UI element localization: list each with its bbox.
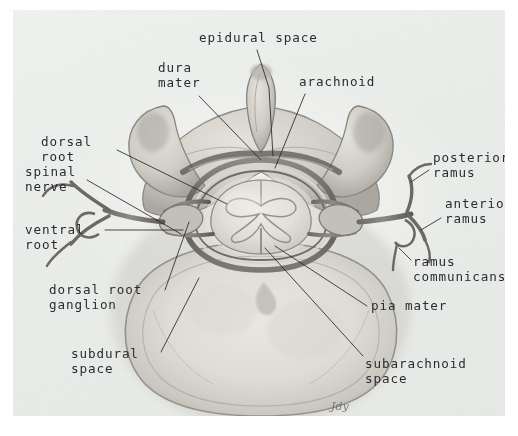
- label-line: dura: [158, 60, 192, 75]
- label-pia-mater: pia mater: [371, 298, 447, 313]
- leader-line-ramus-communicans: [399, 248, 411, 260]
- label-anterior-ramus: anteriorramus: [445, 196, 505, 226]
- label-line: ramus: [445, 211, 487, 226]
- label-line: root: [25, 237, 59, 252]
- label-line: epidural space: [199, 30, 318, 45]
- leader-line-subdural-space: [161, 278, 199, 352]
- label-arachnoid: arachnoid: [299, 74, 375, 89]
- label-line: space: [365, 371, 407, 386]
- anatomical-figure: Jdy epidural spaceduramaterarachnoiddors…: [0, 0, 518, 436]
- label-line: anterior: [445, 196, 505, 211]
- labels-group: epidural spaceduramaterarachnoiddorsalro…: [25, 30, 505, 386]
- label-line: dorsal root: [49, 282, 142, 297]
- leader-line-pia-mater: [275, 246, 367, 306]
- leader-line-subarachnoid-space: [265, 248, 363, 356]
- label-dorsal-root: dorsalroot: [41, 134, 92, 164]
- illustration-plate: Jdy epidural spaceduramaterarachnoiddors…: [13, 10, 505, 416]
- label-spinal-nerve: spinalnerve: [25, 164, 76, 194]
- label-line: dorsal: [41, 134, 92, 149]
- label-line: ramus: [413, 254, 455, 269]
- label-line: ventral: [25, 222, 84, 237]
- leader-line-arachnoid: [275, 94, 305, 168]
- label-ventral-root: ventralroot: [25, 222, 84, 252]
- label-line: root: [41, 149, 75, 164]
- label-line: space: [71, 361, 113, 376]
- label-line: subarachnoid: [365, 356, 467, 371]
- label-epidural-space: epidural space: [199, 30, 318, 45]
- label-dura-mater: duramater: [158, 60, 200, 90]
- label-subarachnoid-space: subarachnoidspace: [365, 356, 467, 386]
- label-subdural-space: subduralspace: [71, 346, 139, 376]
- label-posterior-ramus: posteriorramus: [433, 150, 505, 180]
- leader-line-epidural-space: [257, 50, 273, 156]
- label-line: arachnoid: [299, 74, 375, 89]
- leader-line-dorsal-root: [117, 150, 227, 204]
- label-line: subdural: [71, 346, 139, 361]
- leader-line-dorsal-root-ganglion: [165, 222, 189, 290]
- leader-line-posterior-ramus: [411, 170, 429, 182]
- label-line: nerve: [25, 179, 67, 194]
- label-line: ramus: [433, 165, 475, 180]
- label-line: communicans: [413, 269, 505, 284]
- label-ramus-communicans: ramuscommunicans: [413, 254, 505, 284]
- leader-line-dura-mater: [199, 96, 261, 160]
- label-line: ganglion: [49, 297, 117, 312]
- label-layer: epidural spaceduramaterarachnoiddorsalro…: [13, 10, 505, 416]
- leader-line-anterior-ramus: [421, 218, 441, 230]
- label-line: spinal: [25, 164, 76, 179]
- label-line: mater: [158, 75, 200, 90]
- label-dorsal-root-ganglion: dorsal rootganglion: [49, 282, 142, 312]
- label-line: posterior: [433, 150, 505, 165]
- leader-line-spinal-nerve: [87, 180, 181, 234]
- label-line: pia mater: [371, 298, 447, 313]
